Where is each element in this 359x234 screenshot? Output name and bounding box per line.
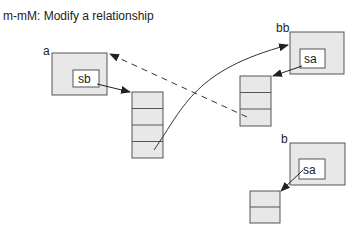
object-b: b sa — [281, 132, 345, 185]
object-bb-label: bb — [276, 21, 290, 35]
slot-sb-label: sb — [78, 72, 91, 86]
object-a-label: a — [43, 44, 50, 58]
edge-dashed-stack-bb-to-a — [110, 54, 247, 117]
stack-b — [250, 191, 280, 223]
relationship-diagram: a sb bb sa b sa — [0, 0, 359, 234]
slot-sa-b-label: sa — [303, 163, 316, 177]
object-b-label: b — [281, 132, 288, 146]
object-bb: bb sa — [276, 21, 344, 74]
slot-sa-bb-label: sa — [304, 52, 317, 66]
object-a: a sb — [43, 44, 107, 95]
stack-bb — [240, 76, 271, 126]
stack-a — [132, 92, 163, 158]
